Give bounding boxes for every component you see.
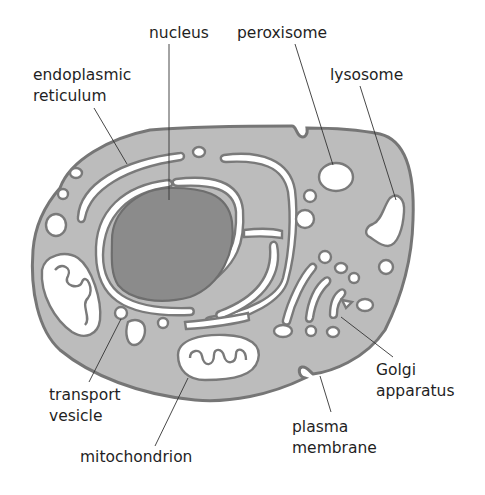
leader-plasma xyxy=(320,376,331,412)
label-lysosome: lysosome xyxy=(330,66,403,84)
label-plasma-line1: plasma xyxy=(292,418,348,436)
label-peroxisome: peroxisome xyxy=(237,24,327,42)
label-er-line2: reticulum xyxy=(33,87,107,105)
peroxisome xyxy=(319,163,353,191)
er-branch xyxy=(244,229,282,238)
transport-vesicle xyxy=(115,307,127,319)
mitochondrion xyxy=(178,335,259,380)
label-mitochondrion: mitochondrion xyxy=(80,448,192,466)
irregular-vesicle xyxy=(126,320,145,345)
label-er-line1: endoplasmic xyxy=(33,66,131,84)
label-nucleus: nucleus xyxy=(149,24,209,42)
label-transport-line2: vesicle xyxy=(49,407,102,425)
label-golgi-line1: Golgi xyxy=(376,361,416,379)
label-plasma-line2: membrane xyxy=(292,439,377,457)
label-golgi-line2: apparatus xyxy=(376,382,455,400)
label-transport-line1: transport xyxy=(49,386,121,404)
cell-diagram: nucleus peroxisome endoplasmic reticulum… xyxy=(0,0,485,495)
